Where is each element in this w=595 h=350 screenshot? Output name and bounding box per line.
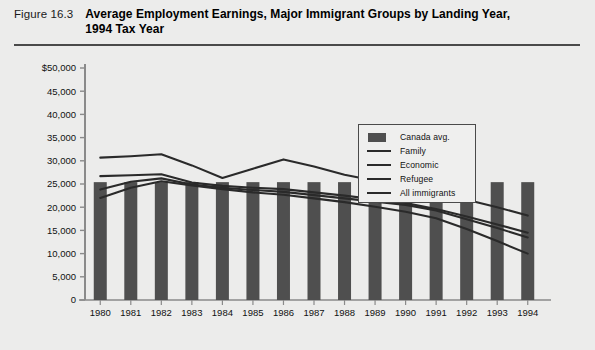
bar-canada-avg xyxy=(216,182,229,300)
x-axis-tick-label: 1985 xyxy=(242,307,263,318)
x-axis-tick-label: 1980 xyxy=(90,307,111,318)
y-axis-tick-label: 20,000 xyxy=(47,202,76,213)
figure-page: Figure 16.3 Average Employment Earnings,… xyxy=(0,0,595,350)
x-axis-tick-label: 1987 xyxy=(303,307,324,318)
bar-canada-avg xyxy=(124,182,137,300)
bar-canada-avg xyxy=(94,182,107,300)
x-axis-tick-label: 1986 xyxy=(273,307,294,318)
line-swatch-icon xyxy=(366,178,393,181)
x-axis-tick-label: 1982 xyxy=(151,307,172,318)
chart-area: $50,00045,00040,00035,00030,00025,00020,… xyxy=(0,52,595,350)
employment-earnings-line-chart: $50,00045,00040,00035,00030,00025,00020,… xyxy=(0,52,595,350)
x-axis-tick-label: 1989 xyxy=(364,307,385,318)
bar-swatch-icon xyxy=(366,133,393,142)
legend-label: Family xyxy=(400,146,426,156)
bar-canada-avg xyxy=(246,182,259,300)
line-swatch-icon xyxy=(366,192,393,195)
legend-item-refugee: Refugee xyxy=(366,172,469,186)
line-swatch-icon xyxy=(366,164,393,167)
legend-label: Canada avg. xyxy=(400,132,450,142)
y-axis-tick-label: 25,000 xyxy=(47,178,76,189)
x-axis-tick-label: 1988 xyxy=(334,307,355,318)
bar-canada-avg xyxy=(277,182,290,300)
legend-label: Refugee xyxy=(400,174,433,184)
y-axis-tick-label: 35,000 xyxy=(47,132,76,143)
legend-item-canada-avg: Canada avg. xyxy=(366,130,469,144)
plot-wrapper: $50,00045,00040,00035,00030,00025,00020,… xyxy=(0,52,595,350)
legend-label: Economic xyxy=(400,160,439,170)
legend-item-economic: Economic xyxy=(366,158,469,172)
bar-canada-avg xyxy=(185,182,198,300)
y-axis-tick-label: 15,000 xyxy=(47,225,76,236)
y-axis-tick-label: 10,000 xyxy=(47,248,76,259)
figure-header: Figure 16.3 Average Employment Earnings,… xyxy=(0,0,595,36)
x-axis-tick-label: 1992 xyxy=(456,307,477,318)
figure-title-row: Figure 16.3 Average Employment Earnings,… xyxy=(0,0,595,36)
x-axis-tick-label: 1984 xyxy=(212,307,233,318)
x-axis-tick-label: 1991 xyxy=(426,307,447,318)
legend-item-all-immigrants: All immigrants xyxy=(366,186,469,200)
figure-number-label: Figure 16.3 xyxy=(14,7,73,20)
y-axis-tick-label: 5,000 xyxy=(52,271,76,282)
y-axis-tick-label: 0 xyxy=(71,294,76,305)
y-axis-tick-label: 30,000 xyxy=(47,155,76,166)
legend-item-family: Family xyxy=(366,144,469,158)
x-axis-tick-label: 1990 xyxy=(395,307,416,318)
y-axis-tick-label: $50,000 xyxy=(42,62,76,73)
bar-canada-avg xyxy=(521,182,534,300)
chart-legend: Canada avg. Family Economic Refugee xyxy=(358,124,476,203)
x-axis-tick-label: 1981 xyxy=(120,307,141,318)
legend-label: All immigrants xyxy=(400,188,455,198)
header-divider xyxy=(14,44,580,46)
line-swatch-icon xyxy=(366,150,393,152)
x-axis-tick-label: 1983 xyxy=(181,307,202,318)
y-axis-tick-label: 40,000 xyxy=(47,109,76,120)
x-axis-tick-label: 1994 xyxy=(517,307,538,318)
x-axis-tick-label: 1993 xyxy=(487,307,508,318)
page-title: Average Employment Earnings, Major Immig… xyxy=(85,7,515,36)
bar-canada-avg xyxy=(155,182,168,300)
y-axis-tick-label: 45,000 xyxy=(47,86,76,97)
